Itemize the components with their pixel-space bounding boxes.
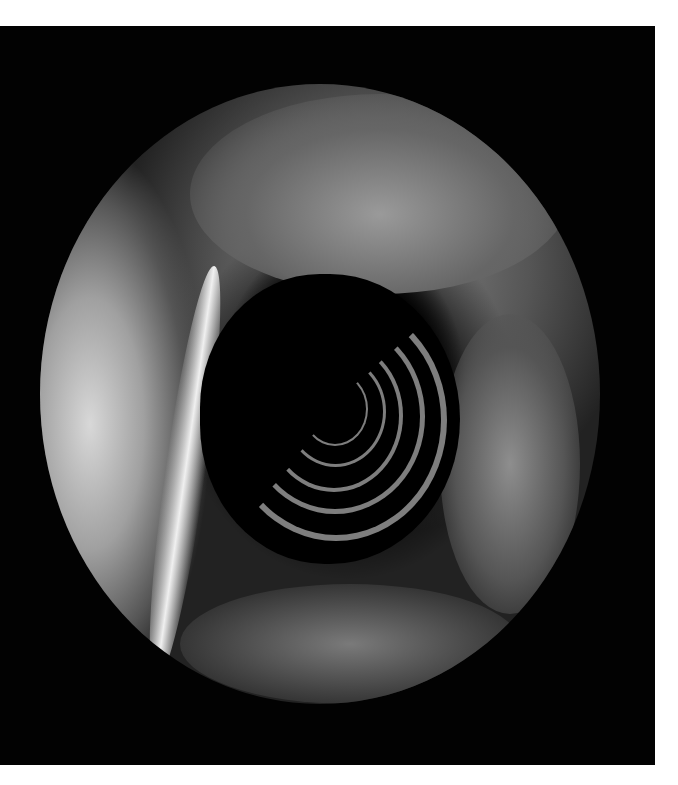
endoscopic-view: [40, 84, 600, 704]
mucosal-fold-bottom: [180, 584, 520, 704]
circular-fold: [302, 372, 368, 446]
mucosal-fold-right: [440, 314, 580, 614]
mucosal-fold-top: [190, 94, 570, 294]
image-frame: [0, 26, 655, 765]
